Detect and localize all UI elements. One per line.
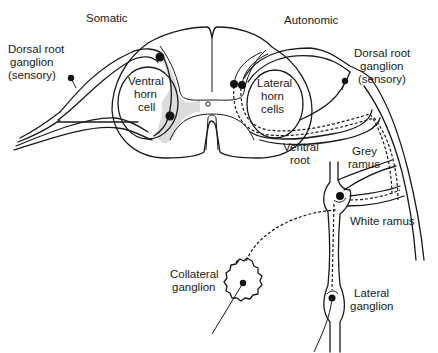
label-dorsal-root-left-3: (sensory) (8, 69, 56, 81)
label-ventral-root-2: root (290, 154, 311, 166)
label-ventral-horn-2: horn (134, 88, 157, 100)
label-dorsal-root-right-3: (sensory) (358, 73, 406, 85)
label-grey-ramus-2: ramus (348, 158, 380, 170)
label-lateral-horn-2: horn (261, 90, 284, 102)
label-lateral-horn-1: Lateral (257, 77, 292, 89)
label-lateral-ganglion-2: ganglion (350, 300, 393, 312)
sympathetic-chain (314, 160, 404, 352)
collateral-ganglion (212, 210, 336, 334)
label-ventral-root-1: Ventral (283, 141, 319, 153)
label-collateral-ganglion-1: Collateral (170, 268, 219, 280)
label-lateral-horn-3: cells (261, 103, 284, 115)
label-lateral-ganglion-1: Lateral (354, 287, 389, 299)
spinal-cord-diagram: Somatic Autonomic (0, 0, 438, 353)
label-collateral-ganglion-2: ganglion (172, 281, 215, 293)
label-dorsal-root-right-2: ganglion (360, 60, 403, 72)
grey-matter-left (158, 48, 200, 143)
label-grey-ramus-1: Grey (352, 145, 377, 157)
label-white-ramus: White ramus (350, 215, 415, 227)
label-ventral-horn-1: Ventral (128, 75, 164, 87)
heading-autonomic: Autonomic (284, 14, 339, 26)
label-ventral-horn-3: cell (138, 101, 155, 113)
label-dorsal-root-left-1: Dorsal root (8, 43, 65, 55)
label-dorsal-root-left-2: ganglion (10, 56, 53, 68)
labels: Dorsal root ganglion (sensory) Ventral h… (8, 43, 415, 312)
heading-somatic: Somatic (86, 12, 128, 24)
label-dorsal-root-right-1: Dorsal root (354, 47, 411, 59)
